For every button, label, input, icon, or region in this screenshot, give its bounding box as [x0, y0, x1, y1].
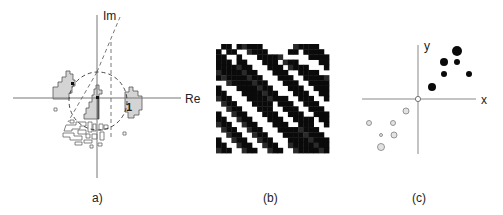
stripe-cell: [308, 75, 314, 81]
stripe-cell: [319, 117, 325, 123]
stripe-cell: [308, 80, 314, 86]
stripe-cell: [257, 127, 263, 133]
stripe-cell: [283, 96, 289, 102]
stripe-cell: [262, 86, 268, 92]
stripe-cell: [278, 96, 284, 102]
stripe-cell: [257, 44, 263, 50]
stripe-cell: [324, 137, 330, 143]
stripe-cell: [267, 101, 273, 107]
stripe-cell: [303, 143, 309, 149]
stripe-cell: [262, 143, 268, 149]
stripe-cell: [324, 86, 330, 92]
stripe-cell: [221, 70, 227, 76]
stripe-cell: [324, 96, 330, 102]
gray-dot: [378, 144, 385, 151]
stripe-cell: [298, 44, 304, 50]
stripe-cell: [231, 65, 237, 71]
re-axis-label: Re: [185, 92, 201, 106]
stripe-cell: [262, 132, 268, 138]
stripe-cell: [231, 80, 237, 86]
stripe-cell: [303, 122, 309, 128]
figure-canvas: Im Re 1 a) (b) x y: [0, 0, 503, 215]
stripe-cell: [293, 65, 299, 71]
stripe-cell: [262, 96, 268, 102]
stripe-cell: [242, 143, 248, 149]
stripe-cell: [262, 54, 268, 60]
stripe-cell: [262, 111, 268, 117]
caption-c: (c): [412, 191, 426, 205]
stripe-cell: [221, 143, 227, 149]
stripe-cell: [293, 80, 299, 86]
stripe-cell: [288, 80, 294, 86]
stripe-cell: [221, 148, 227, 154]
caption-a: a): [92, 191, 103, 205]
stripe-cell: [308, 44, 314, 50]
stripe-cell: [293, 148, 299, 154]
stripe-cell: [319, 111, 325, 117]
stripe-cell: [288, 101, 294, 107]
stripe-cell: [216, 54, 222, 60]
stripe-cell: [308, 101, 314, 107]
stripe-cell: [237, 54, 243, 60]
stripe-cell: [237, 44, 243, 50]
black-dot: [452, 46, 462, 56]
stripe-cell: [216, 86, 222, 92]
stripe-cell: [298, 117, 304, 123]
stripe-cell: [247, 44, 253, 50]
stripe-cell: [303, 137, 309, 143]
stripe-cell: [237, 111, 243, 117]
stripe-cell: [288, 65, 294, 71]
stripe-cell: [237, 132, 243, 138]
stripe-cell: [237, 137, 243, 143]
stripe-cell: [247, 148, 253, 154]
stripe-cell: [308, 106, 314, 112]
stripe-cell: [216, 137, 222, 143]
stripe-cell: [288, 75, 294, 81]
stripe-cell: [231, 111, 237, 117]
stripe-cell: [278, 70, 284, 76]
stripe-cell: [267, 117, 273, 123]
stripe-cell: [247, 49, 253, 55]
stripe-cell: [267, 86, 273, 92]
stripe-cell: [237, 80, 243, 86]
marker-point: [71, 82, 74, 85]
stripe-cell: [293, 137, 299, 143]
stripe-cell: [231, 127, 237, 133]
stripe-cell: [298, 137, 304, 143]
stripe-cell: [252, 49, 258, 55]
stripe-cell: [242, 60, 248, 66]
stripe-cell: [298, 96, 304, 102]
stripe-cell: [226, 65, 232, 71]
stripe-cell: [221, 75, 227, 81]
stripe-cell: [293, 91, 299, 97]
stripe-cell: [314, 86, 320, 92]
panel-b: (b): [216, 44, 329, 205]
stripe-cell: [216, 60, 222, 66]
stripe-cell: [293, 143, 299, 149]
stripe-cell: [242, 111, 248, 117]
stripe-cell: [237, 65, 243, 71]
stripe-cell: [293, 111, 299, 117]
stripe-cell: [324, 143, 330, 149]
gray-dot: [391, 132, 397, 138]
stripe-cell: [319, 106, 325, 112]
stripe-cell: [247, 80, 253, 86]
stripe-cell: [314, 132, 320, 138]
stripe-cell: [273, 91, 279, 97]
stripe-cell: [226, 70, 232, 76]
stripe-cell: [303, 49, 309, 55]
stripe-cell: [231, 75, 237, 81]
stripe-cell: [288, 137, 294, 143]
stripe-cell: [298, 132, 304, 138]
stripe-cell: [267, 65, 273, 71]
stripe-cell: [242, 75, 248, 81]
stripe-cell: [221, 44, 227, 50]
y-axis-label: y: [424, 39, 430, 53]
stripe-cell: [257, 106, 263, 112]
stripe-cell: [319, 86, 325, 92]
stripe-cell: [257, 91, 263, 97]
stripe-cell: [314, 80, 320, 86]
stripe-cell: [319, 49, 325, 55]
stripe-cell: [262, 80, 268, 86]
stripe-cell: [267, 143, 273, 149]
